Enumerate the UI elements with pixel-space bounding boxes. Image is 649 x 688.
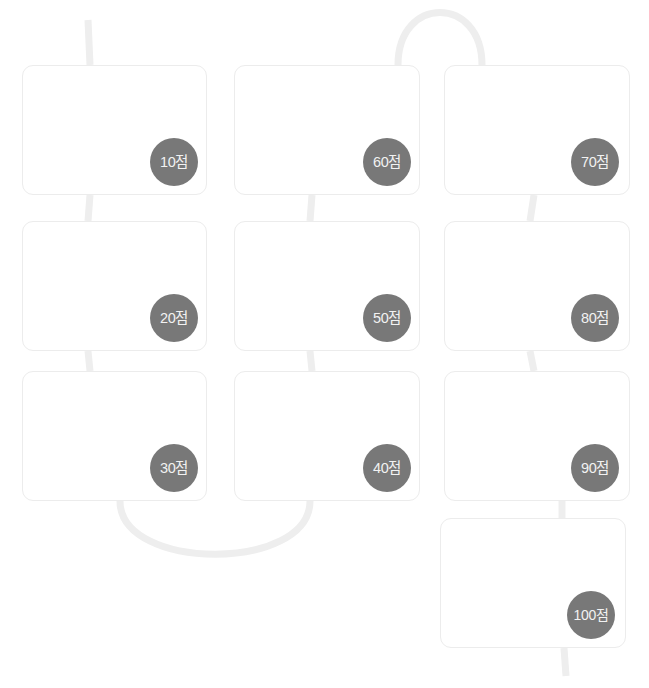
score-badge: 70점 — [571, 138, 619, 186]
score-card[interactable]: 80점 — [444, 221, 630, 351]
connector-link-40-to-50 — [310, 351, 312, 371]
score-badge: 90점 — [571, 444, 619, 492]
connector-arc-30-to-40 — [120, 501, 310, 554]
score-card[interactable]: 20점 — [22, 221, 207, 351]
score-badge: 20점 — [150, 294, 198, 342]
score-card[interactable]: 60점 — [234, 65, 420, 195]
connector-link-50-to-60 — [310, 195, 312, 221]
score-card[interactable]: 50점 — [234, 221, 420, 351]
connector-link-80-to-90 — [530, 351, 534, 371]
score-badge: 60점 — [363, 138, 411, 186]
score-badge: 30점 — [150, 444, 198, 492]
score-card[interactable]: 100점 — [440, 518, 626, 648]
score-badge: 10점 — [150, 138, 198, 186]
score-card[interactable]: 10점 — [22, 65, 207, 195]
connector-entry-stub — [88, 20, 90, 65]
connector-link-70-to-80 — [530, 195, 534, 221]
score-badge: 40점 — [363, 444, 411, 492]
score-badge: 50점 — [363, 294, 411, 342]
connector-arc-60-to-70 — [398, 13, 482, 66]
score-card-flow-board: 10점60점70점20점50점80점30점40점90점100점 — [0, 0, 649, 688]
connector-exit-stub — [564, 648, 566, 676]
score-badge: 80점 — [571, 294, 619, 342]
score-badge: 100점 — [567, 591, 615, 639]
score-card[interactable]: 30점 — [22, 371, 207, 501]
score-card[interactable]: 40점 — [234, 371, 420, 501]
connector-link-10-to-20 — [88, 195, 90, 221]
score-card[interactable]: 70점 — [444, 65, 630, 195]
connector-link-20-to-30 — [88, 351, 90, 371]
score-card[interactable]: 90점 — [444, 371, 630, 501]
